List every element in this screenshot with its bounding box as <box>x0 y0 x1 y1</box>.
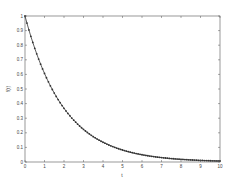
data-point <box>83 129 85 131</box>
data-point <box>81 127 83 129</box>
y-tick-label: 0.4 <box>17 101 24 106</box>
data-point <box>34 47 36 49</box>
data-point <box>55 95 57 97</box>
data-point <box>104 142 106 144</box>
y-tick-label: 0.2 <box>17 130 24 135</box>
data-point <box>174 158 176 160</box>
x-tick-label: 9 <box>199 164 202 169</box>
data-point <box>209 160 211 162</box>
data-point <box>182 159 184 161</box>
data-point <box>53 92 55 94</box>
x-tick-label: 6 <box>141 164 144 169</box>
data-point <box>153 156 155 158</box>
data-point <box>85 130 87 132</box>
data-point <box>92 136 94 138</box>
data-point <box>49 85 51 87</box>
data-point <box>178 158 180 160</box>
data-point <box>110 145 112 147</box>
data-point <box>141 154 143 156</box>
data-point <box>157 156 159 158</box>
y-tick-label: 0.3 <box>17 116 24 121</box>
data-point <box>57 99 59 101</box>
data-point <box>63 107 65 109</box>
x-tick-label: 7 <box>160 164 163 169</box>
data-point <box>46 77 48 79</box>
x-tick-label: 5 <box>121 164 124 169</box>
x-tick-label: 4 <box>102 164 105 169</box>
data-point <box>75 121 77 123</box>
x-axis-label: t <box>121 172 123 178</box>
data-point <box>38 58 40 60</box>
data-point <box>129 151 131 153</box>
data-point <box>165 157 167 159</box>
x-tick-label: 10 <box>217 164 223 169</box>
axes-box <box>25 16 220 162</box>
data-point <box>71 117 73 119</box>
data-point <box>94 137 96 139</box>
data-point <box>205 160 207 162</box>
data-point <box>168 157 170 159</box>
y-tick-label: 1 <box>20 14 23 19</box>
x-tick-label: 1 <box>43 164 46 169</box>
data-point <box>215 160 217 162</box>
data-point <box>120 149 122 151</box>
x-tick-label: 0 <box>24 164 27 169</box>
data-point <box>172 158 174 160</box>
data-point <box>116 147 118 149</box>
data-point <box>207 160 209 162</box>
data-point <box>166 157 168 159</box>
data-point <box>147 155 149 157</box>
data-point <box>137 153 139 155</box>
data-point <box>102 141 104 143</box>
data-point <box>90 134 92 136</box>
data-point <box>192 159 194 161</box>
data-point <box>40 63 42 65</box>
data-point <box>190 159 192 161</box>
data-point <box>139 153 141 155</box>
data-point <box>184 159 186 161</box>
data-point <box>135 153 137 155</box>
data-point <box>202 160 204 162</box>
data-point <box>163 157 165 159</box>
data-point <box>79 125 81 127</box>
data-point <box>51 89 53 91</box>
y-tick-label: 0.9 <box>17 28 24 33</box>
y-tick-label: 0.8 <box>17 43 24 48</box>
data-point <box>126 150 128 152</box>
data-point <box>106 143 108 145</box>
data-point <box>143 154 145 156</box>
y-tick-label: 0.1 <box>17 145 24 150</box>
plot-area <box>25 16 220 162</box>
data-point <box>65 110 67 112</box>
data-point <box>30 35 32 37</box>
data-point <box>127 151 129 153</box>
data-point <box>176 158 178 160</box>
data-point <box>108 144 110 146</box>
data-point <box>217 160 219 162</box>
data-point <box>149 155 151 157</box>
data-point <box>61 105 63 107</box>
data-point <box>118 148 120 150</box>
data-point <box>48 81 50 83</box>
data-point <box>161 157 163 159</box>
data-point <box>87 132 89 134</box>
data-point <box>124 150 126 152</box>
data-point <box>44 73 46 75</box>
x-tick-label: 2 <box>63 164 66 169</box>
data-point <box>151 155 153 157</box>
data-point <box>88 133 90 135</box>
data-point <box>36 53 38 55</box>
data-point <box>211 160 213 162</box>
data-point <box>159 156 161 158</box>
data-point <box>155 156 157 158</box>
chart: 012345678910 00.10.20.30.40.50.60.70.80.… <box>0 0 227 181</box>
data-point <box>69 115 71 117</box>
x-tick-label: 3 <box>82 164 85 169</box>
data-point <box>114 146 116 148</box>
data-point <box>145 155 147 157</box>
data-point <box>100 140 102 142</box>
data-point <box>122 149 124 151</box>
data-point <box>42 68 44 70</box>
data-point <box>32 42 34 44</box>
data-point <box>213 160 215 162</box>
